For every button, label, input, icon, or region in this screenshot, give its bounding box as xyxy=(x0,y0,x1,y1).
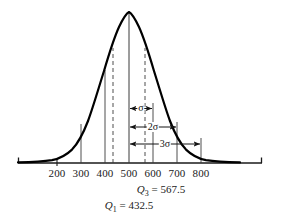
axis-label-300: 300 xyxy=(72,167,89,179)
axis-label-500: 500 xyxy=(120,167,137,179)
q3-symbol: Q xyxy=(137,183,145,195)
q3-annotation: Q3 = 567.5 xyxy=(137,184,185,198)
q1-value: 432.5 xyxy=(128,199,153,211)
sigma-2-label: 2σ xyxy=(147,122,159,132)
q3-equals: = xyxy=(149,183,161,195)
q1-symbol: Q xyxy=(105,199,113,211)
axis-label-600: 600 xyxy=(144,167,161,179)
axis-label-400: 400 xyxy=(96,167,113,179)
q3-value: 567.5 xyxy=(160,183,185,195)
axis-label-700: 700 xyxy=(168,167,185,179)
q1-annotation: Q1 = 432.5 xyxy=(105,200,153,214)
sigma-3-label: 3σ xyxy=(159,139,171,149)
q1-equals: = xyxy=(117,199,129,211)
axis-label-200: 200 xyxy=(48,167,65,179)
normal-distribution-figure: σ 2σ 3σ 200 300 400 500 600 700 800 Q3 =… xyxy=(0,0,284,218)
axis-label-800: 800 xyxy=(192,167,209,179)
sigma-1-label: σ xyxy=(137,103,144,113)
